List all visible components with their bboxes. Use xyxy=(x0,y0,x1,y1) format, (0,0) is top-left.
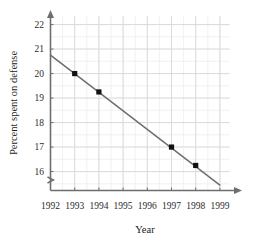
x-tick-label: 1993 xyxy=(65,201,84,211)
data-point-marker xyxy=(96,89,101,94)
x-tick-label: 1999 xyxy=(210,201,229,211)
y-tick-label: 22 xyxy=(35,20,45,30)
chart-container: 19921993199419951996199719981999 1617181… xyxy=(0,0,266,243)
x-tick-label: 1996 xyxy=(138,201,157,211)
x-axis-title: Year xyxy=(135,224,155,235)
y-tick-label: 19 xyxy=(35,93,45,103)
y-axis-title: Percent spent on defense xyxy=(8,51,19,155)
x-tick-label: 1992 xyxy=(41,201,60,211)
y-tick-label: 21 xyxy=(35,44,45,54)
y-tick-label: 20 xyxy=(35,69,45,79)
x-tick-label: 1995 xyxy=(114,201,133,211)
defense-spending-scatter-chart: 19921993199419951996199719981999 1617181… xyxy=(0,0,266,243)
data-point-marker xyxy=(169,144,174,149)
y-tick-label: 17 xyxy=(35,142,45,152)
data-point-marker xyxy=(193,163,198,168)
x-tick-label: 1994 xyxy=(89,201,108,211)
x-tick-label: 1997 xyxy=(162,201,181,211)
y-tick-label: 18 xyxy=(35,118,45,128)
data-point-marker xyxy=(72,71,77,76)
y-tick-label: 16 xyxy=(35,167,45,177)
x-tick-label: 1998 xyxy=(186,201,205,211)
